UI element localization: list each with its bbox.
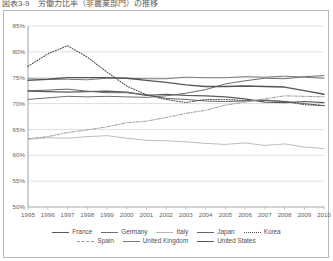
legend-label: Italy [176, 228, 188, 236]
y-axis-tick-label: 75% [13, 74, 26, 81]
legend-label: United States [217, 237, 255, 245]
legend-swatch-japan-icon [197, 232, 214, 233]
y-axis-tick-label: 55% [13, 177, 26, 184]
x-axis-tick-label: 2010 [317, 211, 331, 218]
x-axis-tick-label: 2002 [159, 211, 173, 218]
x-axis-tick-label: 2009 [297, 211, 311, 218]
y-axis-tick-label: 50% [13, 203, 26, 210]
legend-row-1: FranceGermanyItalyJapanKorea [52, 228, 280, 236]
legend-swatch-korea-icon [244, 232, 261, 233]
x-axis-tick-label: 2005 [218, 211, 232, 218]
legend-item-italy[interactable]: Italy [156, 228, 188, 236]
legend-item-germany[interactable]: Germany [101, 228, 147, 236]
legend-label: France [72, 228, 92, 236]
legend-label: Korea [264, 228, 281, 236]
y-axis-tick-label: 70% [13, 100, 26, 107]
chart-legend: FranceGermanyItalyJapanKoreaSpainUnited … [0, 228, 333, 245]
legend-swatch-united-kingdom-icon [123, 241, 140, 242]
x-axis-tick-label: 2003 [179, 211, 193, 218]
legend-label: Spain [97, 237, 113, 245]
x-axis-tick-label: 1998 [80, 211, 94, 218]
x-axis-tick-label: 1996 [41, 211, 55, 218]
legend-swatch-france-icon [52, 232, 69, 233]
legend-item-france[interactable]: France [52, 228, 92, 236]
legend-label: Germany [121, 228, 147, 236]
x-axis-tick-label: 2001 [140, 211, 154, 218]
legend-item-japan[interactable]: Japan [197, 228, 234, 236]
y-axis-tick-label: 60% [13, 151, 26, 158]
legend-swatch-spain-icon [77, 241, 94, 242]
x-axis-tick-label: 1999 [100, 211, 114, 218]
legend-swatch-germany-icon [101, 232, 118, 233]
line-chart: 85%80%75%70%65%60%55%50%1995199619971998… [0, 0, 333, 261]
x-axis-tick-label: 2004 [199, 211, 213, 218]
x-axis-tick-label: 2006 [238, 211, 252, 218]
series-line-italy [28, 136, 324, 149]
legend-row-2: SpainUnited KingdomUnited States [77, 237, 255, 245]
legend-item-united-kingdom[interactable]: United Kingdom [123, 237, 188, 245]
y-axis-tick-label: 80% [13, 48, 26, 55]
legend-item-spain[interactable]: Spain [77, 237, 113, 245]
legend-item-korea[interactable]: Korea [244, 228, 281, 236]
legend-label: United Kingdom [143, 237, 188, 245]
x-axis-tick-label: 2007 [258, 211, 272, 218]
legend-swatch-united-states-icon [197, 241, 214, 242]
legend-item-united-states[interactable]: United States [197, 237, 255, 245]
legend-label: Japan [217, 228, 234, 236]
chart-plot-area: 85%80%75%70%65%60%55%50%1995199619971998… [0, 0, 333, 261]
x-axis-tick-label: 2008 [278, 211, 292, 218]
x-axis-tick-label: 1997 [61, 211, 75, 218]
x-axis-tick-label: 2000 [120, 211, 134, 218]
y-axis-tick-label: 65% [13, 126, 26, 133]
legend-swatch-italy-icon [156, 232, 173, 233]
y-axis-tick-label: 85% [13, 22, 26, 29]
x-axis-tick-label: 1995 [21, 211, 35, 218]
